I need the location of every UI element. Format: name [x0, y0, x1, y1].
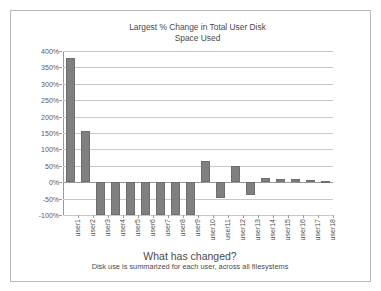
y-axis-tick-label: 0%	[25, 179, 59, 186]
bar-user18	[321, 181, 330, 183]
x-axis-tick-label-user1: user1	[74, 219, 81, 237]
bar-user10	[201, 161, 210, 182]
y-axis-tick-label: 200%	[25, 113, 59, 120]
y-axis-tick-mark	[59, 215, 62, 216]
x-axis-tick-mark	[228, 215, 229, 218]
plot-area	[63, 51, 333, 215]
x-axis-tick-label-user7: user7	[164, 219, 171, 237]
x-axis-tick-mark	[258, 215, 259, 218]
x-axis-tick-label-user15: user15	[284, 219, 291, 240]
bar-user8	[171, 182, 180, 215]
y-axis-tick-label: 150%	[25, 130, 59, 137]
gridline	[63, 51, 333, 52]
y-axis-tick-mark	[59, 84, 62, 85]
x-axis-tick-label-user8: user8	[179, 219, 186, 237]
slide-canvas: Largest % Change in Total User Disk Spac…	[0, 0, 381, 291]
y-axis-tick-mark	[59, 100, 62, 101]
y-axis-tick-mark	[59, 51, 62, 52]
bar-user14	[261, 178, 270, 182]
x-axis-tick-label-user5: user5	[134, 219, 141, 237]
x-axis-tick-label-user3: user3	[104, 219, 111, 237]
gridline	[63, 100, 333, 101]
x-axis-tick-label-user14: user14	[269, 219, 276, 240]
x-axis-tick-label-user16: user16	[299, 219, 306, 240]
x-axis-tick-label-user18: user18	[329, 219, 336, 240]
x-axis-tick-mark	[243, 215, 244, 218]
y-axis-tick-label: 400%	[25, 48, 59, 55]
y-axis-tick-mark	[59, 182, 62, 183]
bar-user1	[66, 58, 75, 183]
gridline	[63, 166, 333, 167]
y-axis-tick-mark	[59, 149, 62, 150]
bar-user3	[96, 182, 105, 215]
footer-subtext: Disk use is summarized for each user, ac…	[20, 262, 360, 271]
x-axis-tick-mark	[288, 215, 289, 218]
gridline	[63, 84, 333, 85]
y-axis-tick-label: -100%	[25, 212, 59, 219]
bar-user9	[186, 182, 195, 215]
x-axis-tick-label-user13: user13	[254, 219, 261, 240]
y-axis-tick-label: 300%	[25, 80, 59, 87]
x-axis-tick-mark	[318, 215, 319, 218]
gridline	[63, 133, 333, 134]
bar-user16	[291, 179, 300, 182]
x-axis-tick-labels: user1user2user3user4user5user6user7user8…	[63, 219, 333, 253]
footer-heading: What has changed?	[30, 250, 350, 262]
bar-user5	[126, 182, 135, 215]
x-axis-tick-label-user4: user4	[119, 219, 126, 237]
x-axis-tick-mark	[303, 215, 304, 218]
bar-user11	[216, 182, 225, 198]
y-axis-tick-mark	[59, 199, 62, 200]
x-axis-tick-label-user11: user11	[224, 219, 231, 240]
bar-user4	[111, 182, 120, 215]
y-axis-tick-label: 50%	[25, 162, 59, 169]
y-axis-tick-mark	[59, 166, 62, 167]
y-axis-tick-label: 250%	[25, 97, 59, 104]
x-axis-tick-label-user12: user12	[239, 219, 246, 240]
y-axis-tick-mark	[59, 133, 62, 134]
chart-title: Largest % Change in Total User Disk Spac…	[60, 22, 335, 43]
y-axis-tick-mark	[59, 117, 62, 118]
y-axis-tick-label: 350%	[25, 64, 59, 71]
y-axis-tick-mark	[59, 67, 62, 68]
y-axis-tick-labels: 400%350%300%250%200%150%100%50%0%-50%-10…	[25, 51, 59, 215]
bar-user6	[141, 182, 150, 215]
x-axis-tick-label-user2: user2	[89, 219, 96, 237]
bar-user15	[276, 179, 285, 183]
x-axis-tick-label-user9: user9	[194, 219, 201, 237]
bar-user7	[156, 182, 165, 215]
x-axis-tick-mark	[333, 215, 334, 218]
bar-user2	[81, 131, 90, 182]
gridline	[63, 149, 333, 150]
bar-user13	[246, 182, 255, 194]
x-axis-tick-label-user17: user17	[314, 219, 321, 240]
x-axis-tick-label-user10: user10	[209, 219, 216, 240]
x-axis-tick-mark	[213, 215, 214, 218]
y-axis-tick-label: 100%	[25, 146, 59, 153]
bar-user17	[306, 180, 315, 182]
bar-user12	[231, 166, 240, 182]
y-axis-tick-label: -50%	[25, 195, 59, 202]
gridline	[63, 117, 333, 118]
x-axis-tick-label-user6: user6	[149, 219, 156, 237]
x-axis-tick-mark	[273, 215, 274, 218]
gridline	[63, 67, 333, 68]
